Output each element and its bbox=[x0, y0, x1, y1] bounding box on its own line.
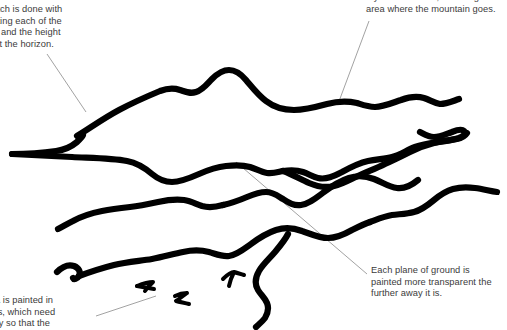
stroke-near-ground-plane bbox=[58, 200, 223, 229]
stroke-lower-bank-right bbox=[79, 222, 370, 276]
stroke-lower-bank-far bbox=[370, 187, 497, 222]
annotation-each-plane: Each plane of ground is painted more tra… bbox=[371, 265, 492, 300]
annotation-initial-sketch: itial sketch is done with cil, locating … bbox=[0, 4, 62, 50]
annotation-yellowish-wash: a yellowish wash, including the area whe… bbox=[366, 0, 496, 15]
stroke-shore-curve bbox=[256, 234, 288, 327]
annotation-sea-layers: he sea is painted in t layers, which nee… bbox=[0, 295, 55, 330]
leader-line-initial-sketch bbox=[47, 54, 86, 112]
stroke-bird-mark-3 bbox=[223, 272, 244, 286]
stroke-bird-mark-2 bbox=[175, 293, 189, 304]
stroke-mid-ground-plane bbox=[12, 154, 283, 182]
sketch-canvas: itial sketch is done with cil, locating … bbox=[0, 0, 507, 330]
leader-line-yellowish-wash bbox=[338, 21, 369, 104]
stroke-mountain-ridge bbox=[77, 70, 459, 136]
stroke-horizon-line bbox=[12, 135, 83, 154]
leader-line-sea-layers bbox=[96, 296, 156, 316]
